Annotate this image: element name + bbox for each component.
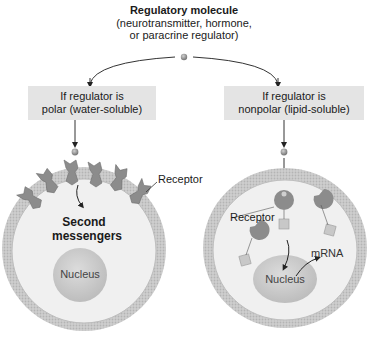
title-line2: (neurotransmitter, hormone, xyxy=(0,17,368,30)
polar-condition-box: If regulator is polar (water-soluble) xyxy=(28,86,156,120)
nonpolar-molecule-icon xyxy=(281,149,288,156)
nucleus-label-right: Nucleus xyxy=(263,273,307,285)
polar-molecule-icon xyxy=(72,149,79,156)
polar-condition-line2: polar (water-soluble) xyxy=(34,103,150,116)
regulatory-molecule-title: Regulatory molecule (neurotransmitter, h… xyxy=(0,4,368,42)
polar-target-cell xyxy=(2,160,166,331)
polar-condition-line1: If regulator is xyxy=(34,90,150,103)
nonpolar-condition-line2: nonpolar (lipid-soluble) xyxy=(230,103,358,116)
nonpolar-condition-box: If regulator is nonpolar (lipid-soluble) xyxy=(224,86,364,120)
second-messengers-label: Second messengers xyxy=(52,215,116,243)
title-heading: Regulatory molecule xyxy=(0,4,368,17)
diagram-graphics xyxy=(0,0,368,338)
branch-curves xyxy=(90,57,278,85)
nonpolar-condition-line1: If regulator is xyxy=(230,90,358,103)
nucleus-label-left: Nucleus xyxy=(58,268,102,280)
mrna-label: mRNA xyxy=(311,247,343,259)
second-messengers-line2: messengers xyxy=(52,229,116,243)
second-messengers-line1: Second xyxy=(52,215,116,229)
regulatory-molecule-icon xyxy=(181,54,187,60)
receptor-label-left: Receptor xyxy=(158,173,203,185)
receptor-label-right: Receptor xyxy=(230,211,275,223)
title-line3: or paracrine regulator) xyxy=(0,29,368,42)
